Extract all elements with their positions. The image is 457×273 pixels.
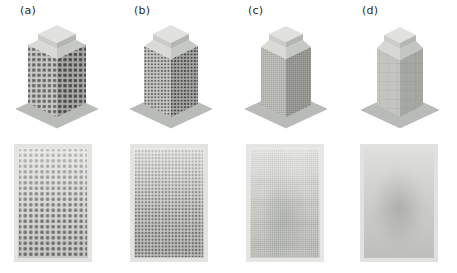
facade-left-mesh-c bbox=[261, 47, 286, 117]
facade-panel-svg-a bbox=[0, 136, 114, 273]
facade-panel-svg-c bbox=[229, 136, 343, 273]
figure-column-c: (c) bbox=[229, 0, 343, 273]
building-render-c bbox=[229, 0, 343, 136]
facade-panel-cell-b bbox=[114, 136, 228, 273]
panel-shading-a bbox=[18, 148, 88, 258]
building-svg-c bbox=[229, 0, 343, 136]
panel-shading-d bbox=[364, 148, 434, 258]
figure-column-a: (a) bbox=[0, 0, 114, 273]
facade-right-mesh-c bbox=[286, 47, 311, 117]
facade-panel-cell-a bbox=[0, 136, 114, 273]
facade-left-mesh-d bbox=[377, 48, 400, 117]
facade-panel-svg-d bbox=[343, 136, 457, 273]
building-render-d bbox=[343, 0, 457, 136]
facade-panel-svg-b bbox=[114, 136, 228, 273]
building-render-a bbox=[0, 0, 114, 136]
panel-shading-b bbox=[134, 148, 204, 258]
panel-shading-c bbox=[250, 148, 320, 258]
building-svg-d bbox=[343, 0, 457, 136]
figure-root: (a) bbox=[0, 0, 457, 273]
facade-right-mesh-d bbox=[400, 48, 423, 117]
building-render-b bbox=[114, 0, 228, 136]
building-svg-a bbox=[0, 0, 114, 136]
facade-panel-cell-d bbox=[343, 136, 457, 273]
facade-panel-cell-c bbox=[229, 136, 343, 273]
figure-column-b: (b) bbox=[114, 0, 228, 273]
building-svg-b bbox=[114, 0, 228, 136]
figure-column-d: (d) bbox=[343, 0, 457, 273]
